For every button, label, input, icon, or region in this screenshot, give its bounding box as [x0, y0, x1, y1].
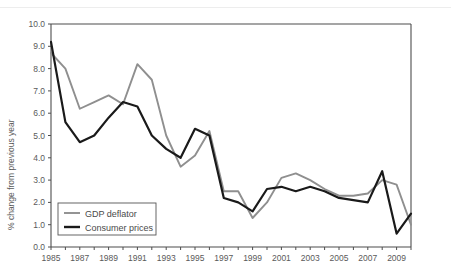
y-tick-label: 3.0 [33, 175, 45, 185]
x-tick-label: 1997 [214, 253, 233, 263]
x-tick-label: 1993 [157, 253, 176, 263]
y-tick-label: 9.0 [33, 41, 45, 51]
y-tick-label: 2.0 [33, 197, 45, 207]
y-tick-label: 8.0 [33, 64, 45, 74]
chart-figure: 0.01.02.03.04.05.06.07.08.09.010.0 19851… [0, 0, 451, 279]
y-tick-label: 5.0 [33, 131, 45, 141]
y-tick-label: 0.0 [33, 242, 45, 252]
legend-label-consumer-prices: Consumer prices [85, 223, 154, 233]
x-tick-label: 1991 [128, 253, 147, 263]
y-tick-label: 4.0 [33, 153, 45, 163]
x-tick-label: 2003 [301, 253, 320, 263]
y-tick-label: 6.0 [33, 108, 45, 118]
series-line-gdp-deflator [51, 53, 411, 225]
x-tick-label: 2007 [358, 253, 377, 263]
x-tick-label: 1995 [186, 253, 205, 263]
chart-legend: GDP deflator Consumer prices [58, 203, 156, 235]
x-tick-label: 1985 [42, 253, 61, 263]
x-tick-label: 1989 [99, 253, 118, 263]
x-tick-label: 2009 [387, 253, 406, 263]
y-axis-tick-labels: 0.01.02.03.04.05.06.07.08.09.010.0 [28, 19, 45, 252]
x-tick-label: 1987 [70, 253, 89, 263]
x-tick-label: 2001 [272, 253, 291, 263]
legend-label-gdp-deflator: GDP deflator [85, 209, 137, 219]
line-chart: 0.01.02.03.04.05.06.07.08.09.010.0 19851… [0, 0, 451, 279]
y-axis-title: % change from previous year [6, 119, 16, 230]
x-tick-label: 2005 [330, 253, 349, 263]
x-tick-label: 1999 [243, 253, 262, 263]
y-tick-label: 10.0 [28, 19, 45, 29]
y-tick-label: 7.0 [33, 86, 45, 96]
x-axis-tick-labels: 1985198719891991199319951997199920012003… [42, 253, 407, 263]
y-tick-label: 1.0 [33, 220, 45, 230]
